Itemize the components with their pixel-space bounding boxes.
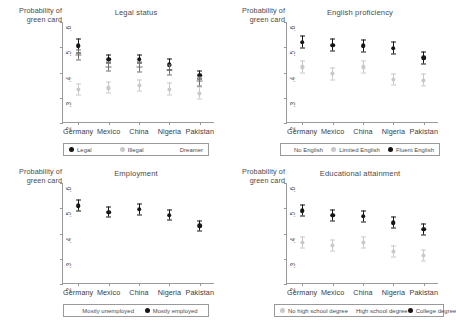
x-axis-tick (333, 283, 334, 286)
panel-legal-status: Probability of green card Legal status .… (0, 0, 224, 161)
error-bar-cap-lower (137, 214, 142, 215)
error-bar-cap-upper (421, 74, 426, 75)
legend-item[interactable]: High school degree (348, 308, 408, 314)
error-bar-cap-upper (167, 58, 172, 59)
dash-marker-icon (166, 69, 172, 70)
data-point-marker (195, 225, 204, 226)
legend-item[interactable]: Dreamer (172, 147, 203, 153)
legend-label: Dreamer (180, 147, 203, 153)
error-bar-cap-lower (76, 95, 81, 96)
panel-english-proficiency: Probability of green card English profic… (224, 0, 449, 161)
x-axis-tick (139, 122, 140, 125)
error-bar-cap-upper (300, 36, 305, 37)
y-axis-tick (60, 284, 63, 285)
y-axis-tick (60, 183, 63, 184)
data-point-marker (328, 73, 337, 74)
error-bar-cap-upper (300, 236, 305, 237)
x-axis-tick (109, 283, 110, 286)
x-axis-tick (200, 283, 201, 286)
error-bar-cap-upper (330, 209, 335, 210)
y-axis-tick (284, 98, 287, 99)
data-point-marker (389, 222, 398, 223)
x-axis-tick-label-pakistan: Pakistan (410, 288, 438, 297)
y-axis-tick-label: .3 (289, 258, 296, 272)
y-axis-tick (284, 123, 287, 124)
panel-title: Educational attainment (280, 169, 440, 178)
legend-item[interactable]: No English (286, 147, 323, 153)
marker-dot-icon (137, 83, 141, 87)
x-axis-tick (363, 283, 364, 286)
x-axis-tick-label-mexico: Mexico (321, 127, 344, 136)
marker-dot-icon (330, 213, 335, 218)
data-point-marker (419, 255, 428, 256)
data-point-marker (419, 80, 428, 81)
legend-item[interactable]: Illegal (120, 147, 144, 153)
data-point-marker (328, 45, 337, 46)
error-bar-cap-lower (106, 71, 111, 72)
marker-dot-icon (137, 207, 142, 212)
legend-item[interactable]: Legal (69, 147, 92, 153)
data-point-marker (359, 242, 368, 243)
x-axis-tick-label-germany: Germany (63, 127, 93, 136)
y-axis-tick (284, 22, 287, 23)
x-axis-tick (333, 122, 334, 125)
legend-item[interactable]: Mostly employed (145, 308, 198, 314)
error-bar-cap-lower (361, 72, 366, 73)
marker-dot-icon (422, 78, 426, 82)
data-point-marker (298, 42, 307, 43)
y-axis-tick-label: .5 (289, 208, 296, 222)
marker-dot-icon (300, 240, 304, 244)
data-point-marker (135, 209, 144, 210)
marker-dot-icon (167, 87, 171, 91)
legend-item[interactable]: Fluent English (388, 147, 434, 153)
error-bar-cap-lower (300, 47, 305, 48)
legend-marker-reference-icon (286, 147, 291, 152)
y-axis-tick-label: .6 (65, 183, 72, 197)
y-axis-tick (284, 259, 287, 260)
x-axis-tick-label-china: China (353, 127, 372, 136)
error-bar-cap-lower (76, 211, 81, 212)
marker-dot-icon (167, 213, 172, 218)
legend-label: Illegal (128, 147, 144, 153)
error-bar-cap-upper (137, 62, 142, 63)
error-bar-cap-lower (167, 220, 172, 221)
data-point-marker (389, 251, 398, 252)
legend-item[interactable]: Mostly unemployed (74, 308, 134, 314)
legend-marker-dash-icon (172, 147, 177, 152)
legend-item[interactable]: No high school degree (280, 308, 348, 314)
x-axis-tick (363, 122, 364, 125)
y-axis-tick (284, 208, 287, 209)
error-bar-cap-lower (300, 216, 305, 217)
error-bar-cap-lower (167, 95, 172, 96)
y-axis-tick (60, 234, 63, 235)
error-bar-cap-upper (330, 39, 335, 40)
error-bar-cap-upper (330, 239, 335, 240)
error-bar-cap-lower (421, 260, 426, 261)
x-axis-tick-label-pakistan: Pakistan (410, 127, 438, 136)
data-point-marker (298, 66, 307, 67)
y-axis-tick-label: .6 (289, 183, 296, 197)
data-point-marker (165, 215, 174, 216)
plot-area-educational-attainment: .2.3.4.5.6GermanyMexicoChinaNigeriaPakis… (286, 183, 438, 284)
marker-dot-icon (106, 210, 111, 215)
marker-dot-icon (300, 65, 304, 69)
x-axis-tick (424, 283, 425, 286)
legend-marker-solid-circle-icon (69, 147, 74, 152)
marker-dot-icon (361, 214, 366, 219)
legend-label: Fluent English (396, 147, 434, 153)
x-axis-tick (169, 122, 170, 125)
x-axis-tick (200, 122, 201, 125)
error-bar-cap-lower (391, 54, 396, 55)
x-axis-tick-label-germany: Germany (287, 127, 317, 136)
marker-dot-icon (300, 208, 305, 213)
panel-title: English proficiency (280, 8, 440, 17)
marker-dot-icon (391, 46, 396, 51)
error-bar-cap-upper (391, 216, 396, 217)
y-axis-tick (284, 284, 287, 285)
error-bar-cap-upper (421, 249, 426, 250)
legend-item[interactable]: College degree (408, 308, 456, 314)
marker-dot-icon (107, 86, 111, 90)
marker-dot-icon (76, 44, 81, 49)
plot-area-legal-status: .2.3.4.5.6GermanyMexicoChinaNigeriaPakis… (62, 22, 214, 123)
legend-item[interactable]: Limited English (331, 147, 380, 153)
